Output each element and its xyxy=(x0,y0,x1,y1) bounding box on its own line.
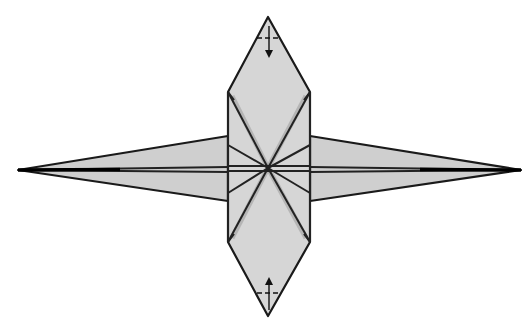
right-spike xyxy=(310,136,521,201)
center-panel xyxy=(228,17,310,316)
origami-diagram xyxy=(0,0,529,333)
left-spike xyxy=(18,136,228,201)
